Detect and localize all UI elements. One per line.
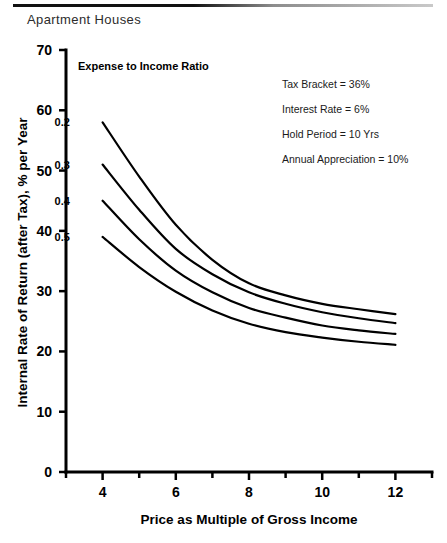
x-tick-label: 12 — [375, 485, 415, 499]
y-tick-label: 70 — [12, 43, 52, 57]
x-tick-label: 6 — [156, 485, 196, 499]
series-label: 0.5 — [55, 231, 85, 243]
series-curve — [103, 201, 396, 334]
annotation-line: Interest Rate = 6% — [282, 103, 408, 115]
annotation-line: Hold Period = 10 Yrs — [282, 128, 408, 140]
series-label: 0.4 — [55, 195, 85, 207]
y-tick-label: 20 — [12, 344, 52, 358]
series-label: 0.2 — [55, 116, 85, 128]
y-tick-label: 60 — [12, 103, 52, 117]
x-tick-label: 8 — [229, 485, 269, 499]
annotation-line: Annual Appreciation = 10% — [282, 153, 408, 165]
x-tick-label: 10 — [302, 485, 342, 499]
x-tick-label: 4 — [83, 485, 123, 499]
annotation-line: Tax Bracket = 36% — [282, 78, 408, 90]
x-axis-title: Price as Multiple of Gross Income — [66, 512, 432, 527]
series-label: 0.3 — [55, 159, 85, 171]
chart-figure: Internal Rate of Return (after Tax), % p… — [0, 0, 447, 543]
y-tick-label: 50 — [12, 164, 52, 178]
annotation-block: Tax Bracket = 36%Interest Rate = 6%Hold … — [282, 78, 408, 178]
y-tick-label: 40 — [12, 224, 52, 238]
y-tick-label: 30 — [12, 284, 52, 298]
legend-title: Expense to Income Ratio — [78, 60, 209, 72]
y-tick-label: 0 — [12, 465, 52, 479]
y-tick-label: 10 — [12, 405, 52, 419]
